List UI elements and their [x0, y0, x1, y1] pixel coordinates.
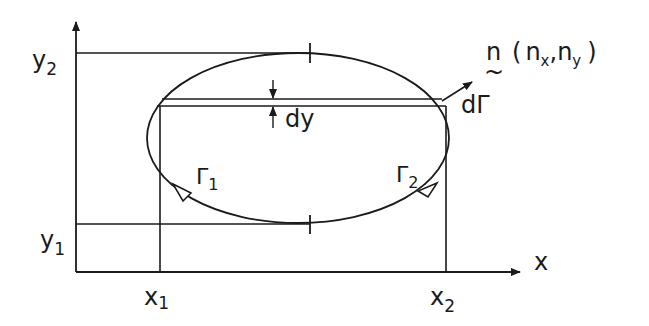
dy-label: dy — [285, 105, 314, 133]
x1-label: x1 — [144, 283, 169, 313]
gamma1-label: Γ1 — [196, 164, 218, 194]
x-axis-label: x — [534, 248, 548, 276]
x2-label: x2 — [430, 283, 455, 316]
normal-tilde: ~ — [484, 58, 504, 86]
gamma1-direction-icon — [173, 184, 191, 201]
gamma2-direction-icon — [418, 183, 437, 197]
normal-components: (nx,ny) — [512, 38, 597, 70]
dgamma-label: dΓ — [461, 91, 490, 119]
y1-label: y1 — [40, 226, 65, 259]
contour-gamma — [147, 53, 449, 223]
y2-label: y2 — [32, 46, 57, 79]
contour-integral-diagram: y2 y1 x1 x2 x dy dΓ Γ1 Γ2 n ~ (nx,ny) — [0, 0, 649, 326]
gamma2-label: Γ2 — [396, 162, 418, 192]
